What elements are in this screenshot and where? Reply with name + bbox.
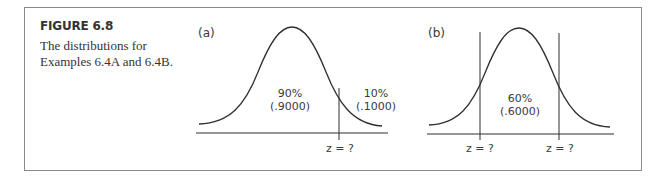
panel-a-tail-area-pct: 10% bbox=[364, 87, 388, 100]
panel-a-z-label: z = ? bbox=[326, 142, 354, 155]
distribution-plots: (a) 90% (.9000) 10% (.1000) z = ? (b) 60… bbox=[0, 0, 670, 182]
panel-b-z-label-left: z = ? bbox=[466, 142, 494, 155]
panel-a-center-area-pct: 90% bbox=[278, 87, 302, 100]
panel-b-label: (b) bbox=[428, 26, 445, 40]
panel-b-center-area-prop: (.6000) bbox=[500, 105, 540, 118]
panel-b-center-area-pct: 60% bbox=[508, 92, 532, 105]
panel-a: (a) 90% (.9000) 10% (.1000) z = ? bbox=[196, 26, 396, 155]
panel-a-center-area-prop: (.9000) bbox=[270, 100, 310, 113]
panel-a-tail-area-prop: (.1000) bbox=[356, 100, 396, 113]
panel-b: (b) 60% (.6000) z = ? z = ? bbox=[427, 26, 614, 155]
panel-b-z-label-right: z = ? bbox=[546, 142, 574, 155]
panel-a-label: (a) bbox=[198, 26, 215, 40]
